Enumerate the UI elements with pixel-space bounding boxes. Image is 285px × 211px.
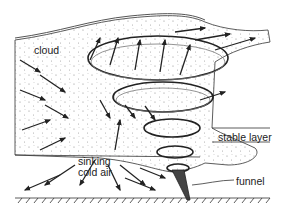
cloud-mass — [15, 16, 270, 172]
label-sinking-cold-air: sinking cold air — [78, 156, 112, 178]
label-funnel: funnel — [236, 176, 265, 187]
label-cloud: cloud — [34, 45, 59, 56]
label-sinking-line2: cold air — [78, 167, 112, 178]
label-stable-layer: stable layer — [218, 132, 272, 143]
funnel-leader — [192, 180, 234, 185]
tornado-diagram: cloud stable layer sinking cold air funn… — [0, 0, 285, 211]
funnel-shape — [172, 170, 190, 200]
ground — [15, 198, 270, 203]
